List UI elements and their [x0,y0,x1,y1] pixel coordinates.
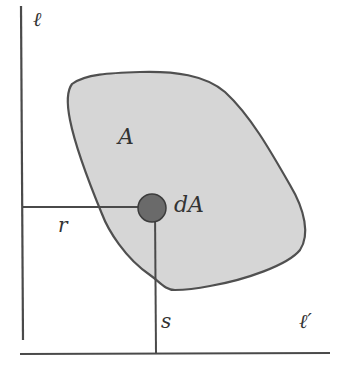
distance-s-line [155,209,156,354]
distance-s-label: s [161,309,171,333]
axis-l-prime-label: ℓ′ [299,309,312,333]
vertical-axis-line [21,6,23,340]
distance-r-label: r [58,213,69,237]
element-da-label: dA [174,192,204,217]
region-a-label: A [116,124,134,149]
diagram-canvas: ℓ A dA r s ℓ′ [0,0,346,387]
horizontal-axis-line [20,353,330,354]
area-element-dot [138,194,166,222]
axis-l-label: ℓ [33,7,42,31]
region-a-shape [68,72,306,290]
